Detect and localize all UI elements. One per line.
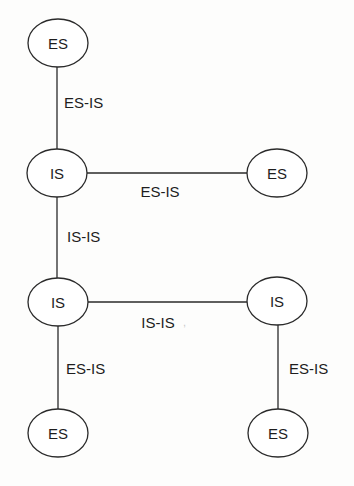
node-is-low-right: IS bbox=[247, 277, 307, 325]
edge-labels-layer: ES-ISES-ISIS-ISIS-ISES-ISES-IS bbox=[64, 94, 328, 377]
edge-label: ES-IS bbox=[64, 94, 103, 111]
node-label: ES bbox=[268, 425, 288, 442]
edge-label: ES-IS bbox=[289, 360, 328, 377]
node-label: IS bbox=[51, 294, 65, 311]
edge-label: ES-IS bbox=[140, 183, 179, 200]
node-is-low-left: IS bbox=[28, 278, 88, 326]
scan-artifact-mark: , bbox=[183, 316, 186, 328]
network-diagram: ESISESISISESES ES-ISES-ISIS-ISIS-ISES-IS… bbox=[0, 0, 354, 486]
node-es-top: ES bbox=[28, 19, 88, 67]
edge-label: IS-IS bbox=[67, 228, 100, 245]
node-label: ES bbox=[48, 35, 68, 52]
node-label: ES bbox=[48, 425, 68, 442]
node-label: IS bbox=[50, 165, 64, 182]
node-es-mid-right: ES bbox=[247, 149, 307, 197]
edge-label: IS-IS bbox=[141, 314, 174, 331]
node-is-mid-left: IS bbox=[27, 149, 87, 197]
node-es-bottom-left: ES bbox=[28, 409, 88, 457]
edge-label: ES-IS bbox=[66, 360, 105, 377]
node-label: ES bbox=[267, 165, 287, 182]
node-label: IS bbox=[270, 293, 284, 310]
node-es-bottom-right: ES bbox=[248, 409, 308, 457]
